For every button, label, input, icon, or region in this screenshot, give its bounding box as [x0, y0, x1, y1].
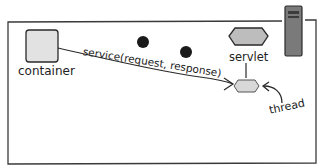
thread-shape [234, 80, 259, 92]
container-label: container [18, 64, 75, 78]
server-icon [285, 6, 302, 56]
diagram-canvas [0, 0, 323, 168]
container-box [26, 30, 58, 62]
servlet-label: servlet [229, 50, 268, 64]
response-dot [180, 46, 192, 58]
servlet-shape [229, 28, 268, 45]
request-dot [137, 36, 149, 48]
